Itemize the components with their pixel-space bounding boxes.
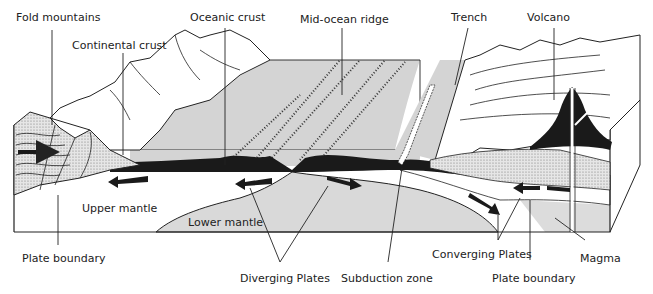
label-volcano: Volcano (527, 12, 570, 23)
label-subduction-zone: Subduction zone (341, 273, 433, 284)
label-magma: Magma (580, 253, 621, 264)
label-trench: Trench (451, 12, 487, 23)
label-continental-crust: Continental crust (72, 40, 167, 51)
right-lower-region (520, 200, 610, 232)
label-mid-ocean-ridge: Mid-ocean ridge (300, 14, 389, 25)
label-plate-boundary-right: Plate boundary (492, 273, 575, 284)
label-plate-boundary-left: Plate boundary (22, 253, 105, 264)
label-diverging-plates: Diverging Plates (240, 273, 330, 284)
label-converging-plates: Converging Plates (432, 249, 532, 260)
arrow-left-diverge (108, 176, 148, 188)
label-lower-mantle: Lower mantle (188, 217, 263, 228)
label-fold-mountains: Fold mountains (16, 12, 100, 23)
label-oceanic-crust: Oceanic crust (190, 12, 265, 23)
label-upper-mantle: Upper mantle (82, 203, 157, 214)
